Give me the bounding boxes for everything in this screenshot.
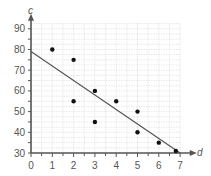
data-point [157, 140, 161, 144]
y-tick-label: 90 [14, 23, 26, 34]
data-point [50, 47, 54, 51]
scatter-plot: 0123456730405060708090 d c [0, 0, 211, 176]
x-tick-label: 4 [113, 160, 119, 171]
data-point [135, 130, 139, 134]
y-tick-label: 40 [14, 127, 26, 138]
y-tick-label: 70 [14, 65, 26, 76]
x-axis-label: d [197, 147, 203, 158]
x-axis-arrow-icon [190, 150, 197, 156]
x-tick-label: 7 [177, 160, 183, 171]
y-tick-label: 60 [14, 85, 26, 96]
data-point [71, 99, 75, 103]
y-tick-label: 30 [14, 148, 26, 159]
data-point [174, 149, 178, 153]
x-tick-label: 5 [135, 160, 141, 171]
x-tick-label: 0 [28, 160, 34, 171]
y-axis-label: c [28, 5, 33, 16]
data-point [114, 99, 118, 103]
x-tick-label: 1 [50, 160, 56, 171]
grid-lines [31, 24, 180, 153]
x-tick-label: 6 [156, 160, 162, 171]
data-point [71, 58, 75, 62]
y-tick-label: 80 [14, 44, 26, 55]
data-point [93, 89, 97, 93]
data-point [135, 109, 139, 113]
axes [28, 14, 197, 157]
data-point [93, 120, 97, 124]
x-tick-label: 2 [71, 160, 77, 171]
y-tick-label: 50 [14, 106, 26, 117]
x-tick-label: 3 [92, 160, 98, 171]
